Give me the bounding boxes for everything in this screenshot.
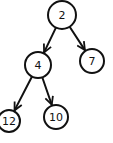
tree-node-7: 7 — [80, 49, 104, 73]
tree-edge-arrow — [15, 77, 33, 111]
node-label: 10 — [49, 111, 63, 124]
tree-edge-arrow — [42, 77, 51, 104]
tree-edge-arrow — [44, 28, 56, 53]
node-label: 7 — [89, 55, 96, 68]
node-label: 12 — [2, 115, 16, 128]
tree-node-12: 12 — [0, 110, 20, 132]
tree-edge-arrow — [70, 27, 85, 50]
tree-node-4: 4 — [25, 52, 51, 78]
tree-node-10: 10 — [44, 105, 68, 129]
nodes: 2 4 7 12 10 — [0, 1, 104, 132]
node-label: 4 — [35, 59, 42, 72]
tree-diagram: 2 4 7 12 10 — [0, 0, 113, 143]
node-label: 2 — [59, 9, 66, 22]
tree-node-2: 2 — [48, 1, 76, 29]
